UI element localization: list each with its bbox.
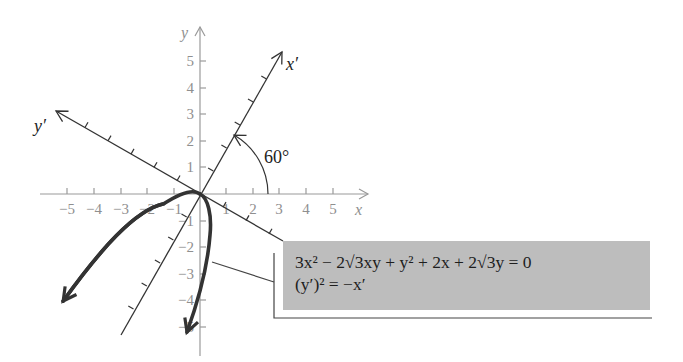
x-tick-label: −5 bbox=[59, 201, 75, 217]
rotation-angle-label: 60° bbox=[264, 147, 289, 167]
y-tick-label: 4 bbox=[187, 80, 195, 96]
y-axis-label: y bbox=[179, 24, 189, 42]
x-tick-label: 4 bbox=[302, 201, 310, 217]
y-prime-axis: y′ bbox=[32, 111, 283, 241]
original-equation: 3x² − 2√3xy + y² + 2x + 2√3y = 0 bbox=[295, 251, 650, 273]
y-tick-label: 2 bbox=[187, 133, 195, 149]
y-tick-label: −4 bbox=[178, 292, 194, 308]
x-prime-axis-label: x′ bbox=[285, 54, 299, 74]
x-axis: −5 −4 −3 −2 −1 1 2 3 4 5 x bbox=[40, 188, 368, 218]
x-tick-label: −4 bbox=[86, 201, 102, 217]
x-tick-label: −3 bbox=[113, 201, 129, 217]
y-tick-label: 1 bbox=[187, 159, 195, 175]
x-tick-label: 3 bbox=[275, 201, 283, 217]
y-tick-label: 5 bbox=[187, 53, 195, 69]
y-tick-label: −3 bbox=[178, 266, 194, 282]
y-tick-label: −2 bbox=[178, 239, 194, 255]
rotation-angle-marker: 60° bbox=[234, 135, 289, 194]
y-tick-label: 3 bbox=[187, 106, 195, 122]
y-prime-axis-label: y′ bbox=[32, 116, 47, 136]
x-tick-label: 5 bbox=[329, 201, 337, 217]
x-axis-label: x bbox=[354, 201, 362, 218]
rotated-equation: (y′)² = −x′ bbox=[295, 273, 650, 295]
equation-box: 3x² − 2√3xy + y² + 2x + 2√3y = 0 (y′)² =… bbox=[283, 241, 650, 310]
x-tick-label: 2 bbox=[249, 201, 257, 217]
